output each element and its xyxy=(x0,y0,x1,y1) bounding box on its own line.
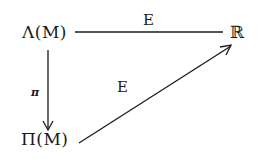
edge-label-vertical: π xyxy=(31,87,39,98)
node-lambda-m: Λ(M) xyxy=(22,24,67,41)
node-pi-m: Π(M) xyxy=(21,131,69,148)
edge-label-diagonal: E xyxy=(117,80,128,95)
edge-diagonal-arrow xyxy=(79,46,231,143)
node-reals: ℝ xyxy=(230,24,244,41)
edge-label-top: E xyxy=(143,13,154,28)
